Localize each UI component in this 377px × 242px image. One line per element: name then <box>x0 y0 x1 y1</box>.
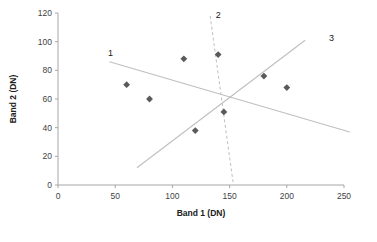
y-tick-label: 60 <box>43 94 53 104</box>
x-axis-title: Band 1 (DN) <box>177 208 226 218</box>
chart-canvas: 020406080100120 050100150200250 1 2 3 Ba… <box>0 0 377 242</box>
y-tick-label: 20 <box>43 151 53 161</box>
y-tick-label: 40 <box>43 123 53 133</box>
x-tick-label: 200 <box>280 191 294 201</box>
x-tick-label: 0 <box>56 191 61 201</box>
x-tick-label: 100 <box>165 191 179 201</box>
boundary-label-1: 1 <box>108 48 113 58</box>
x-tick-label: 150 <box>223 191 237 201</box>
y-axis-ticks-group: 020406080100120 <box>38 8 58 190</box>
y-tick-label: 0 <box>47 180 52 190</box>
y-tick-label: 120 <box>38 8 52 18</box>
x-axis-ticks-group: 050100150200250 <box>56 185 352 201</box>
boundary-label-3: 3 <box>329 33 334 43</box>
boundary-label-2: 2 <box>216 10 221 20</box>
plot-area-background <box>58 13 344 185</box>
y-axis-title: Band 2 (DN) <box>8 75 18 124</box>
scatter-chart: 020406080100120 050100150200250 1 2 3 Ba… <box>0 0 377 242</box>
x-tick-label: 250 <box>337 191 351 201</box>
y-tick-label: 100 <box>38 37 52 47</box>
x-tick-label: 50 <box>110 191 120 201</box>
y-tick-label: 80 <box>43 65 53 75</box>
